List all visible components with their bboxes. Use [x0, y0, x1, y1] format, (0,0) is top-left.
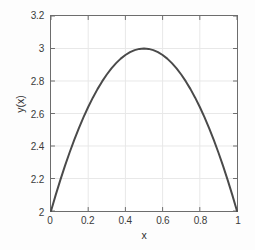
data-curve	[51, 16, 237, 211]
x-tick-label: 1	[235, 215, 240, 226]
y-axis-title: y(x)	[14, 74, 26, 134]
y-tick-label: 2.2	[31, 174, 44, 185]
plot-area	[50, 15, 238, 212]
y-tick-label: 2.8	[31, 75, 44, 86]
x-tick-label: 0.6	[156, 215, 169, 226]
x-tick-label: 0	[47, 215, 52, 226]
x-tick-label: 0.2	[81, 215, 94, 226]
x-tick-label: 0.8	[194, 215, 207, 226]
y-tick-label: 3	[39, 42, 44, 53]
y-tick-label: 3.2	[31, 10, 44, 21]
x-axis-tick-labels: 00.20.40.60.81	[50, 215, 238, 229]
y-tick-label: 2	[39, 207, 44, 218]
x-tick-label: 0.4	[119, 215, 132, 226]
x-axis-title: x	[50, 229, 238, 241]
y-tick-label: 2.4	[31, 141, 44, 152]
figure-canvas: 22.22.42.62.833.2 00.20.40.60.81 x y(x)	[0, 0, 255, 250]
y-tick-label: 2.6	[31, 108, 44, 119]
